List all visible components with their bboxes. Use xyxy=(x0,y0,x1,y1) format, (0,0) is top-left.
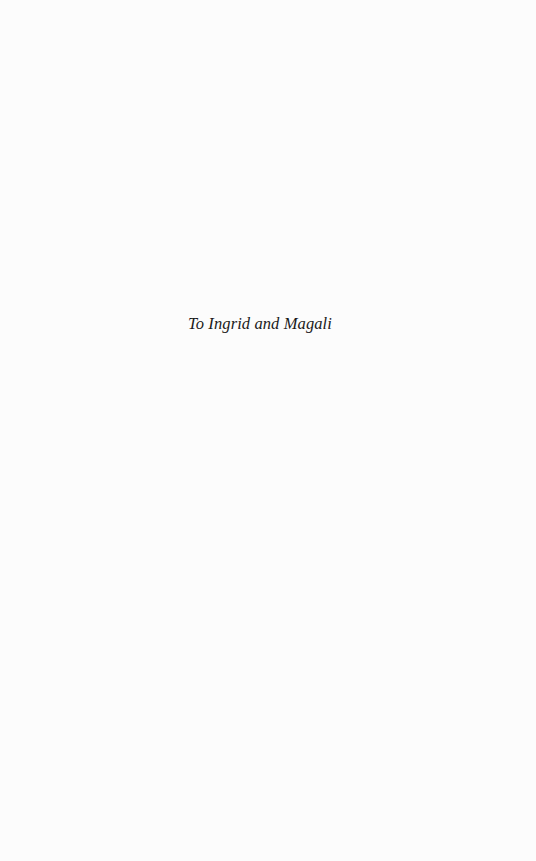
book-page: To Ingrid and Magali xyxy=(0,0,536,861)
dedication-text: To Ingrid and Magali xyxy=(188,314,332,334)
